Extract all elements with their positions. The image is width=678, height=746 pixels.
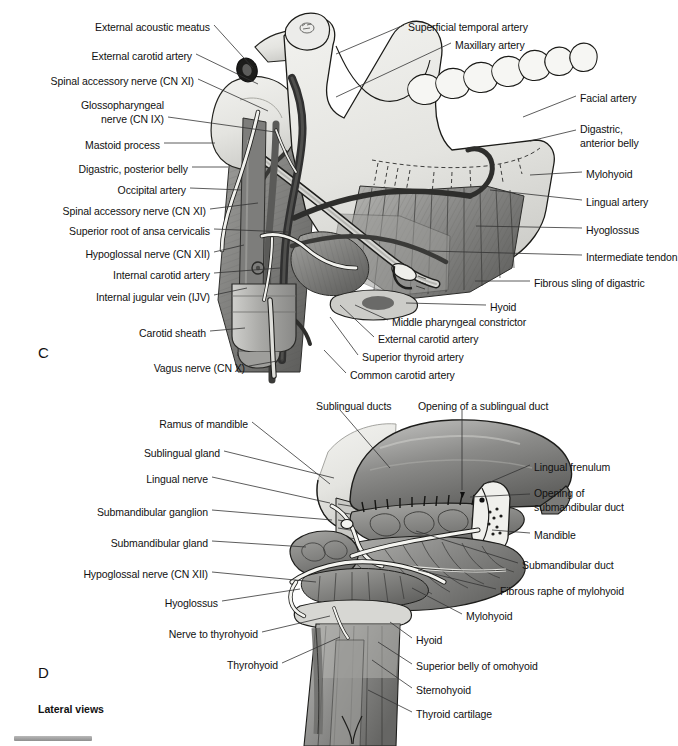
leader-line: [252, 422, 330, 484]
anatomy-label: Submandibular ganglion: [97, 506, 208, 519]
anatomy-label: Hyoglossus: [586, 224, 639, 237]
anatomy-label: Submandibular duct: [522, 559, 614, 572]
leader-line: [214, 25, 253, 68]
anatomy-label: Opening of a sublingual duct: [418, 400, 548, 413]
anatomy-label: Occipital artery: [118, 184, 186, 197]
anatomy-label: Superior belly of omohyoid: [416, 660, 538, 673]
anatomy-label: Thyroid cartilage: [416, 708, 492, 721]
anatomy-label: Internal carotid artery: [113, 269, 210, 282]
anatomy-label: Nerve to thyrohyoid: [169, 628, 258, 641]
anatomy-label: Lingual artery: [586, 196, 648, 209]
anatomy-label: Hypoglossal nerve (CN XII): [85, 248, 210, 261]
anatomy-label: Vagus nerve (CN X): [154, 362, 245, 375]
leader-line: [324, 350, 346, 373]
anatomy-label: Ramus of mandible: [159, 418, 248, 431]
anatomy-label: Spinal accessory nerve (CN XI): [51, 75, 194, 88]
anatomy-label: Sublingual ducts: [316, 400, 391, 413]
anatomy-label: Mylohyoid: [586, 168, 632, 181]
anatomy-label: Common carotid artery: [350, 369, 455, 382]
anatomy-label: Lingual frenulum: [534, 461, 610, 474]
leader-line: [523, 96, 576, 117]
leader-line: [530, 130, 576, 141]
leader-line: [224, 451, 334, 478]
anatomy-label: Digastric,: [580, 123, 623, 136]
anatomy-label: Hypoglossal nerve (CN XII): [83, 568, 208, 581]
anatomy-label: Mylohyoid: [466, 610, 512, 623]
anatomy-label: Hyoid: [416, 634, 442, 647]
anatomy-label: Hyoglossus: [165, 597, 218, 610]
anatomy-label: External carotid artery: [92, 50, 192, 63]
anatomy-label: Submandibular gland: [111, 537, 208, 550]
leader-line: [212, 477, 330, 503]
anatomy-label: External acoustic meatus: [95, 21, 210, 34]
figure-caption: Lateral views: [38, 703, 104, 715]
leader-line: [212, 510, 332, 520]
panel-letter-d: D: [38, 664, 49, 681]
anatomy-label: Hyoid: [490, 301, 516, 314]
anatomy-label: Superior root of ansa cervicalis: [69, 225, 210, 238]
anatomy-label: Internal jugular vein (IJV): [96, 291, 210, 304]
anatomy-label: anterior belly: [580, 137, 639, 150]
anatomy-label: Facial artery: [580, 92, 636, 105]
anatomy-label: Glossopharyngeal: [81, 99, 164, 112]
anatomy-label: nerve (CN IX): [101, 113, 164, 126]
footer-rule-bar: [14, 736, 92, 741]
anatomy-label: Superficial temporal artery: [408, 21, 528, 34]
anatomy-label: Intermediate tendon: [586, 251, 678, 264]
anatomy-label: External carotid artery: [378, 333, 478, 346]
anatomy-label: Fibrous raphe of mylohyoid: [500, 585, 624, 598]
leader-line: [330, 317, 358, 355]
anatomy-label: Digastric, posterior belly: [79, 163, 188, 176]
panel-d-illustration: [290, 420, 572, 746]
anatomy-label: Mastoid process: [85, 139, 160, 152]
anatomy-label: Fibrous sling of digastric: [534, 277, 645, 290]
anatomy-label: Sternohyoid: [416, 684, 471, 697]
anatomy-label: Maxillary artery: [455, 39, 525, 52]
anatomy-label: Thyrohyoid: [227, 659, 278, 672]
anatomy-label: Opening of: [534, 487, 584, 500]
anatomy-label: Mandible: [534, 529, 576, 542]
anatomy-label: Carotid sheath: [139, 327, 206, 340]
anatomy-label: Superior thyroid artery: [362, 351, 464, 364]
panel-letter-c: C: [38, 344, 49, 361]
anatomy-label: Sublingual gland: [144, 447, 220, 460]
anatomy-label: Spinal accessory nerve (CN XI): [63, 205, 206, 218]
anatomy-label: Lingual nerve: [146, 473, 208, 486]
anatomy-label: Middle pharyngeal constrictor: [392, 316, 526, 329]
anatomy-label: submandibular duct: [534, 501, 624, 514]
